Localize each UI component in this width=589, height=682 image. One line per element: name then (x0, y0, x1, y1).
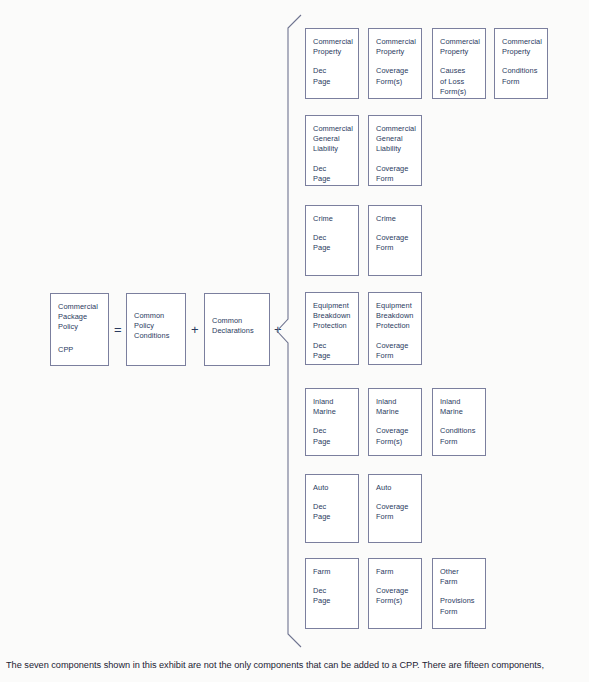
box-text-group-2: DecPage (313, 426, 358, 446)
box-text-group-2: CoverageForm (376, 502, 421, 522)
box-cpp-abbr: CPP (58, 345, 108, 355)
box-text-line: Coverage (376, 233, 421, 243)
box-cpp-group-2: CPP (58, 345, 108, 355)
box-cpp-line: Policy (58, 322, 108, 332)
box-farm-2[interactable]: FarmCoverageForm(s) (368, 558, 422, 629)
box-text-group-1: CommercialGeneralLiability (376, 124, 421, 155)
box-commercial-property-1[interactable]: CommercialPropertyDecPage (305, 28, 359, 99)
box-text-group-1: Crime (313, 214, 358, 224)
box-text-line: Page (313, 77, 358, 87)
box-text-line: Conditions (502, 66, 547, 76)
box-text-line: Coverage (376, 164, 421, 174)
box-text-line: Commercial (376, 124, 421, 134)
box-text-group-2: DecPage (313, 502, 358, 522)
box-text-line: Farm (440, 577, 485, 587)
box-text-line: Dec (313, 233, 358, 243)
box-inland-marine-2[interactable]: InlandMarineCoverageForm(s) (368, 388, 422, 456)
box-text-line: Equipment (313, 301, 358, 311)
box-text-group-2: CoverageForm(s) (376, 66, 421, 86)
box-text-line: Dec (313, 164, 358, 174)
box-text-group-1: CommercialProperty (313, 37, 358, 57)
diagram-canvas: Commercial Package Policy CPP = Common P… (0, 0, 589, 682)
box-text-line: Form (376, 243, 421, 253)
box-text-line: Form (376, 174, 421, 184)
box-text-line: Inland (440, 397, 485, 407)
box-text-group-1: CommercialGeneralLiability (313, 124, 358, 155)
box-text-line: Conditions (440, 426, 485, 436)
box-text-line: Marine (440, 407, 485, 417)
box-text-line: Marine (313, 407, 358, 417)
box-commercial-property-3[interactable]: CommercialPropertyCausesof LossForm(s) (432, 28, 486, 99)
box-text-line: Auto (313, 483, 358, 493)
box-text-line: Form(s) (440, 87, 485, 97)
box-text-group-1: EquipmentBreakdownProtection (376, 301, 421, 332)
box-text-group-1: Auto (313, 483, 358, 493)
box-text-line: Protection (313, 321, 358, 331)
box-text-line: Breakdown (376, 311, 421, 321)
box-common-policy-conditions[interactable]: Common Policy Conditions (126, 293, 186, 366)
box-text-group-1: Crime (376, 214, 421, 224)
box-common-declarations[interactable]: Common Declarations (204, 293, 270, 366)
grouping-bracket (276, 14, 302, 648)
box-text-group-1: Auto (376, 483, 421, 493)
box-text-line: Crime (376, 214, 421, 224)
box-auto-2[interactable]: AutoCoverageForm (368, 474, 422, 543)
box-text-line: of Loss (440, 77, 485, 87)
operator-plus-1: + (191, 323, 199, 336)
box-conditions-line: Conditions (134, 331, 185, 341)
box-text-group-2: DecPage (313, 164, 358, 184)
box-text-line: Inland (313, 397, 358, 407)
box-commercial-general-liability-2[interactable]: CommercialGeneralLiabilityCoverageForm (368, 115, 422, 186)
box-farm-3[interactable]: OtherFarmProvisionsForm (432, 558, 486, 629)
box-crime-1[interactable]: CrimeDecPage (305, 205, 359, 276)
box-text-line: Breakdown (313, 311, 358, 321)
box-text-line: Page (313, 437, 358, 447)
box-text-group-2: CoverageForm (376, 164, 421, 184)
box-declarations-group-1: Common Declarations (212, 316, 269, 336)
box-text-group-2: DecPage (313, 66, 358, 86)
box-text-group-1: Farm (376, 567, 421, 577)
box-cpp-line: Package (58, 312, 108, 322)
box-text-line: Coverage (376, 426, 421, 436)
box-commercial-package-policy[interactable]: Commercial Package Policy CPP (50, 293, 109, 366)
box-farm-1[interactable]: FarmDecPage (305, 558, 359, 629)
box-text-line: Property (376, 47, 421, 57)
box-commercial-general-liability-1[interactable]: CommercialGeneralLiabilityDecPage (305, 115, 359, 186)
box-equipment-breakdown-protection-2[interactable]: EquipmentBreakdownProtectionCoverageForm (368, 292, 422, 365)
box-text-group-2: DecPage (313, 233, 358, 253)
box-text-group-2: CoverageForm(s) (376, 426, 421, 446)
box-text-line: Inland (376, 397, 421, 407)
box-text-group-2: CoverageForm (376, 233, 421, 253)
box-text-line: Commercial (313, 124, 358, 134)
box-text-group-1: Farm (313, 567, 358, 577)
box-text-line: Farm (376, 567, 421, 577)
box-text-line: Auto (376, 483, 421, 493)
box-text-group-1: InlandMarine (313, 397, 358, 417)
box-inland-marine-1[interactable]: InlandMarineDecPage (305, 388, 359, 456)
box-text-line: Form (376, 512, 421, 522)
box-text-line: Commercial (313, 37, 358, 47)
box-text-line: Marine (376, 407, 421, 417)
box-text-line: Page (313, 351, 358, 361)
box-text-line: Page (313, 596, 358, 606)
box-auto-1[interactable]: AutoDecPage (305, 474, 359, 543)
box-commercial-property-2[interactable]: CommercialPropertyCoverageForm(s) (368, 28, 422, 99)
box-text-group-1: InlandMarine (376, 397, 421, 417)
box-text-line: Liability (313, 144, 358, 154)
box-text-line: Commercial (502, 37, 547, 47)
box-declarations-line: Common (212, 316, 269, 326)
box-text-line: General (376, 134, 421, 144)
box-text-group-2: DecPage (313, 341, 358, 361)
box-text-group-2: Causesof LossForm(s) (440, 66, 485, 97)
box-crime-2[interactable]: CrimeCoverageForm (368, 205, 422, 276)
box-inland-marine-3[interactable]: InlandMarineConditionsForm (432, 388, 486, 456)
box-conditions-group-1: Common Policy Conditions (134, 311, 185, 342)
box-conditions-line: Common (134, 311, 185, 321)
box-text-group-2: ConditionsForm (502, 66, 547, 86)
box-text-line: Coverage (376, 66, 421, 76)
box-text-line: Property (502, 47, 547, 57)
box-equipment-breakdown-protection-1[interactable]: EquipmentBreakdownProtectionDecPage (305, 292, 359, 365)
box-text-line: Form (440, 607, 485, 617)
box-text-line: Form(s) (376, 596, 421, 606)
box-commercial-property-4[interactable]: CommercialPropertyConditionsForm (494, 28, 548, 99)
